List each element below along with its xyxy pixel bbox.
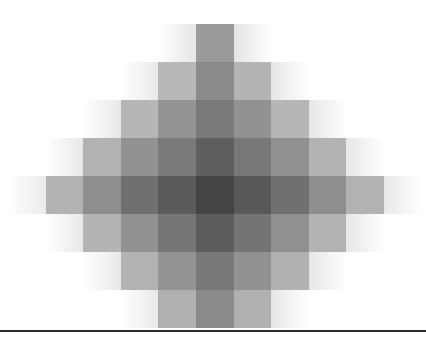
grid-cell xyxy=(384,176,422,214)
grid-cell xyxy=(309,176,347,214)
grid-cell xyxy=(83,214,121,252)
grid-cell xyxy=(158,138,196,176)
grid-cell xyxy=(309,100,347,138)
baseline-rule xyxy=(0,330,426,332)
grid-cell xyxy=(346,214,384,252)
grid-cell xyxy=(346,176,384,214)
grid-cell xyxy=(234,176,272,214)
grid-cell xyxy=(158,214,196,252)
grid-cell xyxy=(234,138,272,176)
grid-cell xyxy=(158,100,196,138)
grid-cell xyxy=(271,214,309,252)
grid-cell xyxy=(196,214,234,252)
grid-cell xyxy=(83,176,121,214)
grid-cell xyxy=(271,100,309,138)
grid-cell xyxy=(234,290,272,328)
grid-cell xyxy=(196,138,234,176)
grid-cell xyxy=(83,252,121,290)
grid-cell xyxy=(234,62,272,100)
grid-cell xyxy=(121,62,159,100)
grid-cell xyxy=(234,252,272,290)
grid-cell xyxy=(46,214,84,252)
grid-cell xyxy=(271,176,309,214)
grid-cell xyxy=(196,62,234,100)
grid-cell xyxy=(121,252,159,290)
grid-cell xyxy=(121,138,159,176)
grid-cell xyxy=(121,214,159,252)
grid-cell xyxy=(271,252,309,290)
grid-cell xyxy=(196,24,234,62)
diamond-gradient-figure xyxy=(0,0,426,341)
grid-cell xyxy=(234,214,272,252)
grid-cell xyxy=(46,138,84,176)
grid-cell xyxy=(271,290,309,328)
grid-cell xyxy=(8,176,46,214)
grid-cell xyxy=(121,100,159,138)
grid-cell xyxy=(309,214,347,252)
grid-cell xyxy=(309,252,347,290)
grid-cell xyxy=(196,252,234,290)
grid-cell xyxy=(158,62,196,100)
grid-cell xyxy=(196,290,234,328)
grid-cell xyxy=(271,62,309,100)
grid-cell xyxy=(271,138,309,176)
grid-cell xyxy=(83,100,121,138)
grid-cell xyxy=(196,176,234,214)
grid-cell xyxy=(121,176,159,214)
grid-cell xyxy=(46,176,84,214)
grid-cell xyxy=(158,176,196,214)
grid-cell xyxy=(158,290,196,328)
grid-cell xyxy=(234,100,272,138)
grid-cell xyxy=(234,24,272,62)
grid-cell xyxy=(83,138,121,176)
grid-cell xyxy=(196,100,234,138)
grid-cell xyxy=(346,138,384,176)
grid-cell xyxy=(158,252,196,290)
grid-cell xyxy=(309,138,347,176)
grid-cell xyxy=(121,290,159,328)
grid-cell xyxy=(158,24,196,62)
